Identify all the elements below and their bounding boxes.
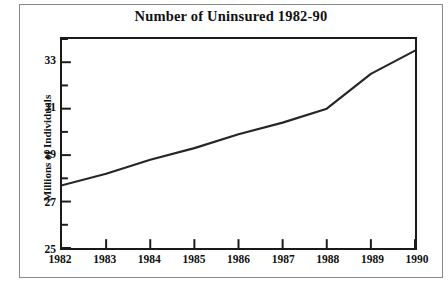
data-series-line [62,51,415,186]
y-axis-tick-labels: 2527293133 [18,37,56,250]
x-axis-ticks [106,239,415,248]
y-axis-tick-label: 31 [22,102,56,114]
y-axis-ticks [62,39,71,248]
page-title: Number of Uninsured 1982-90 [19,8,443,25]
chart-figure: Number of Uninsured 1982-90 Millions of … [0,0,448,288]
y-axis-tick-label: 29 [22,149,56,161]
plot-area [60,37,417,250]
y-axis-tick-label: 27 [22,197,56,209]
x-axis-tick-labels: 198219831984198519861987198819891990 [60,254,417,274]
y-axis-tick-label: 33 [22,55,56,67]
plot-svg [62,39,415,248]
x-axis-tick-label: 1990 [387,254,447,266]
